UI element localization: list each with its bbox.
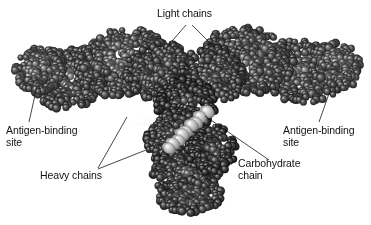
antibody-space-filling-model	[0, 0, 371, 225]
label-heavy-chains: Heavy chains	[40, 170, 102, 182]
label-light-chains: Light chains	[157, 8, 212, 20]
antibody-figure: Light chains Antigen-binding site Antige…	[0, 0, 371, 225]
label-antigen-binding-site-left: Antigen-binding site	[6, 125, 77, 148]
label-antigen-binding-site-right: Antigen-binding site	[283, 125, 354, 148]
label-carbohydrate-chain: Carbohydrate chain	[238, 158, 300, 181]
